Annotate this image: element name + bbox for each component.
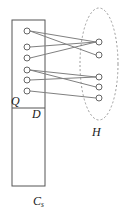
node-h3 (96, 74, 102, 80)
node-q3 (24, 55, 30, 61)
node-q5 (24, 77, 30, 83)
node-q2 (24, 44, 30, 50)
node-h1 (96, 39, 102, 45)
node-h4 (96, 84, 102, 90)
node-q6 (24, 88, 30, 94)
node-q4 (24, 67, 30, 73)
label-cs-base: C (33, 194, 41, 208)
figure-root: Q D H Cs (0, 0, 124, 215)
label-h: H (92, 126, 101, 138)
node-q1 (24, 28, 30, 34)
node-h5 (96, 95, 102, 101)
label-q: Q (11, 95, 20, 107)
label-cs: Cs (33, 195, 44, 207)
label-cs-subscript: s (41, 200, 44, 209)
node-h2 (96, 52, 102, 58)
label-d: D (32, 108, 41, 120)
